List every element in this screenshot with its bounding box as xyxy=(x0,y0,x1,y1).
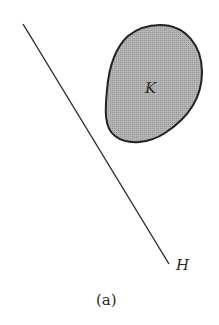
caption: (a) xyxy=(96,291,117,309)
region-k-label: K xyxy=(144,79,157,97)
diagram: K H (a) xyxy=(0,0,219,325)
line-h-label: H xyxy=(175,256,190,274)
